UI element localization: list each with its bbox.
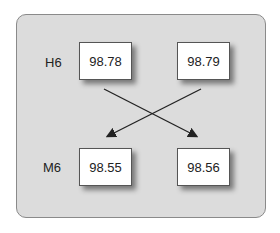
arrow-h6-right-to-m6-left [108,89,201,136]
cross-arrows [0,0,280,233]
arrow-h6-left-to-m6-right [104,89,196,136]
